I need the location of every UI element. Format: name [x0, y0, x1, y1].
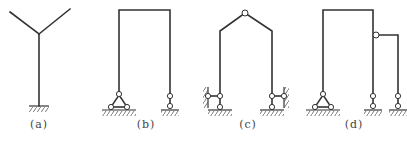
hv-link-support-right-icon — [260, 87, 289, 116]
link-support-icon — [161, 93, 179, 116]
panel-c-structure — [203, 10, 289, 116]
link-support-icon — [364, 93, 382, 116]
fixed-support-icon — [29, 106, 49, 112]
caption-c: (c) — [239, 118, 257, 131]
side-hinge-icon — [373, 32, 379, 38]
triangle-link-support-icon — [306, 91, 340, 116]
caption-b: (b) — [137, 118, 156, 131]
panel-b-structure — [102, 10, 179, 116]
triangle-link-support-icon — [102, 91, 136, 116]
link-support-icon — [389, 93, 407, 116]
panel-d-structure — [306, 10, 407, 116]
caption-a: (a) — [30, 118, 48, 131]
ridge-hinge-icon — [242, 10, 248, 16]
hv-link-support-left-icon — [203, 87, 232, 116]
caption-d: (d) — [345, 118, 364, 131]
panel-a-structure — [10, 9, 70, 112]
